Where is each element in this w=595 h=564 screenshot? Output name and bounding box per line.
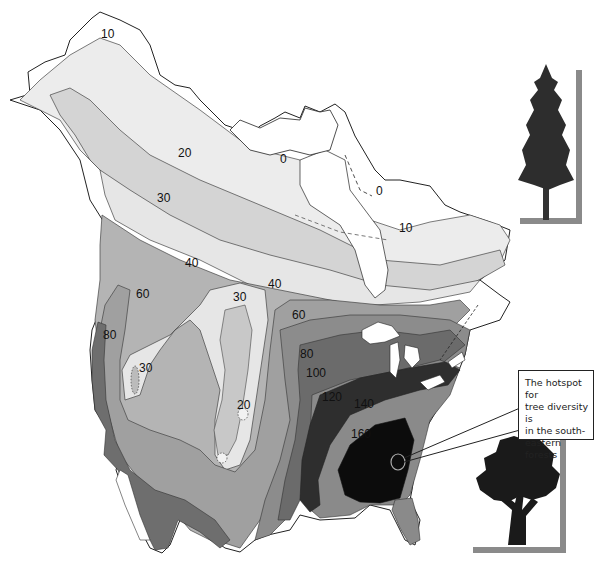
conifer-tree-illustration xyxy=(518,64,582,224)
spot-2 xyxy=(217,453,227,463)
contour-label: 80 xyxy=(300,348,313,360)
callout-line: in the south- xyxy=(525,425,589,437)
contour-label: 80 xyxy=(103,329,116,341)
contour-label: 60 xyxy=(292,309,305,321)
contour-label: 30 xyxy=(157,192,170,204)
diversity-map xyxy=(0,0,595,564)
contour-label: 30 xyxy=(139,362,152,374)
contour-label: 40 xyxy=(185,257,198,269)
contour-label: 10 xyxy=(101,28,114,40)
callout-line: The hotspot for xyxy=(525,377,589,401)
contour-label: 10 xyxy=(399,222,412,234)
contour-label: 40 xyxy=(268,278,281,290)
spot-3 xyxy=(131,366,139,394)
contour-label: 0 xyxy=(280,153,287,165)
contour-label: 20 xyxy=(237,399,250,411)
contour-label: 120 xyxy=(322,391,342,403)
contour-label: 140 xyxy=(354,398,374,410)
callout-line: tree diversity is xyxy=(525,401,589,425)
contour-label: 30 xyxy=(233,291,246,303)
contour-label: 160 xyxy=(351,428,371,440)
contour-label: 100 xyxy=(306,367,326,379)
contour-label: 60 xyxy=(136,288,149,300)
contour-label: 20 xyxy=(178,147,191,159)
hotspot-callout: The hotspot for tree diversity is in the… xyxy=(518,370,594,440)
callout-line: eastern forests xyxy=(525,437,589,461)
contour-label: 0 xyxy=(376,185,383,197)
